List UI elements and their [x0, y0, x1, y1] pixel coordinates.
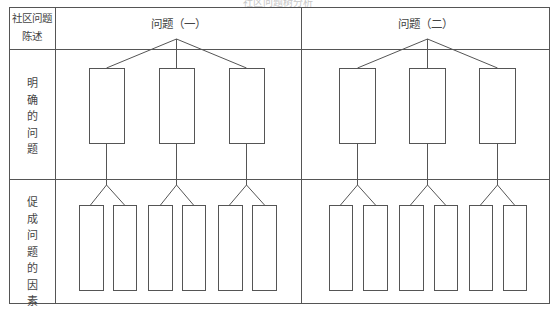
char: 明: [9, 76, 55, 93]
char: 因: [9, 278, 55, 295]
tree-problem-2: [330, 39, 527, 291]
row-header-statement: 社区问题 陈述: [9, 9, 55, 45]
char: 的: [9, 261, 55, 278]
factor-box: [435, 206, 458, 291]
problem-box: [410, 69, 446, 144]
problem-tree-diagram: [0, 0, 555, 310]
char: 的: [9, 109, 55, 126]
problem-box: [230, 69, 265, 144]
char: 确: [9, 93, 55, 110]
row-header-statement-line2: 陈述: [9, 27, 55, 45]
char: 题: [9, 245, 55, 262]
column-header-problem-1: 问题（一）: [56, 16, 301, 32]
char: 问: [9, 228, 55, 245]
problem-box: [90, 69, 125, 144]
column-header-problem-2: 问题（二）: [302, 16, 549, 32]
factor-box: [504, 206, 527, 291]
row-header-identified-problems: 明 确 的 问 题: [9, 76, 55, 159]
table-border: [10, 8, 550, 304]
char: 素: [9, 294, 55, 310]
problem-box: [340, 69, 376, 144]
char: 题: [9, 142, 55, 159]
factor-box: [149, 206, 173, 291]
problem-box: [480, 69, 516, 144]
factor-box: [400, 206, 424, 291]
row-header-statement-line1: 社区问题: [9, 9, 55, 27]
char: 促: [9, 195, 55, 212]
factor-box: [183, 206, 206, 291]
factor-box: [114, 206, 137, 291]
factor-box: [219, 206, 243, 291]
tree-problem-1: [80, 39, 277, 291]
char: 成: [9, 212, 55, 229]
problem-box: [160, 69, 195, 144]
row-header-contributing-factors: 促 成 问 题 的 因 素: [9, 195, 55, 310]
char: 问: [9, 126, 55, 143]
factor-box: [253, 206, 277, 291]
factor-box: [470, 206, 493, 291]
factor-box: [364, 206, 388, 291]
factor-box: [80, 206, 104, 291]
factor-box: [330, 206, 353, 291]
